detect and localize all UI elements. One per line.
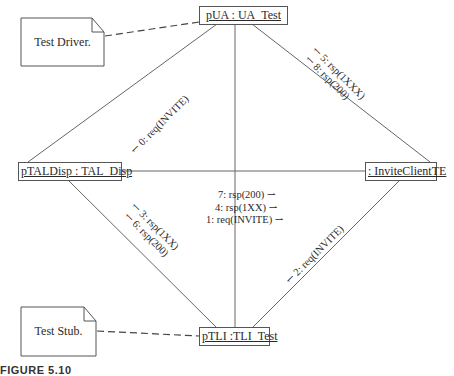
- object-pua[interactable]: pUA : UA_Test: [199, 6, 288, 25]
- object-invite-client[interactable]: : InviteClientTE: [365, 162, 437, 181]
- message-4: 4: rsp(1XX) ⇀: [215, 202, 277, 213]
- message-label: 7: rsp(200): [218, 189, 264, 200]
- arrow-icon: ⇀: [269, 202, 278, 213]
- object-ptli[interactable]: pTLI :TLI_Test: [199, 327, 270, 346]
- note-test-driver: Test Driver.: [21, 35, 104, 50]
- arrow-icon: ⇀: [267, 189, 276, 200]
- object-ptaldisp[interactable]: pTALDisp : TAL_Disp: [18, 162, 122, 181]
- message-label: 4: rsp(1XX): [215, 202, 266, 213]
- note-test-stub: Test Stub.: [21, 324, 96, 339]
- arrow-icon: ⇀: [275, 214, 284, 225]
- message-1: 1: req(INVITE) ⇀: [206, 214, 284, 225]
- message-7: 7: rsp(200) ⇀: [218, 189, 276, 200]
- figure-caption: FIGURE 5.10: [0, 364, 72, 376]
- message-label: 1: req(INVITE): [206, 214, 272, 225]
